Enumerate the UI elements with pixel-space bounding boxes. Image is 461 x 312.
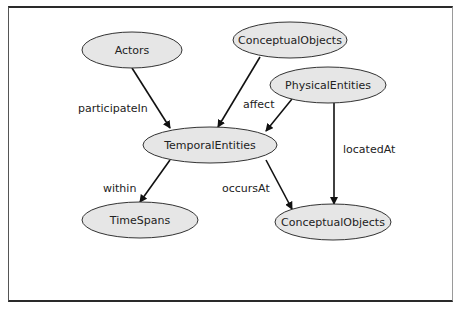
edge-conceptual-objects-top-to-temporal-entities: affect	[218, 57, 275, 127]
edge-label: occursAt	[222, 182, 270, 195]
node-time-spans: TimeSpans	[82, 202, 198, 238]
arrow-icon	[266, 160, 292, 209]
node-label: TemporalEntities	[163, 139, 256, 152]
edge-label: locatedAt	[343, 143, 396, 156]
edge-physical-entities-to-conceptual-objects-bottom: locatedAt	[334, 103, 396, 204]
edge-temporal-entities-to-conceptual-objects-bottom: occursAt	[222, 160, 292, 209]
edge-label: affect	[243, 98, 275, 111]
ontology-diagram: participateInaffectlocatedAtwithinoccurs…	[0, 0, 461, 312]
node-conceptual-objects-bottom: ConceptualObjects	[275, 204, 391, 240]
edge-temporal-entities-to-time-spans: within	[103, 160, 170, 202]
arrow-icon	[218, 57, 260, 127]
node-label: Actors	[115, 44, 150, 57]
arrow-icon	[140, 160, 170, 202]
nodes-layer: ActorsConceptualObjectsPhysicalEntitiesT…	[82, 22, 391, 240]
node-label: TimeSpans	[109, 214, 171, 227]
node-label: ConceptualObjects	[281, 216, 385, 229]
edge-label: within	[103, 182, 136, 195]
node-actors: Actors	[82, 32, 182, 68]
node-temporal-entities: TemporalEntities	[143, 127, 277, 163]
node-label: ConceptualObjects	[238, 34, 342, 47]
node-label: PhysicalEntities	[285, 79, 371, 92]
edge-label: participateIn	[78, 102, 148, 115]
edge-actors-to-temporal-entities: participateIn	[78, 68, 170, 128]
node-conceptual-objects-top: ConceptualObjects	[233, 22, 347, 58]
node-physical-entities: PhysicalEntities	[270, 67, 386, 103]
arrow-icon	[132, 68, 170, 128]
